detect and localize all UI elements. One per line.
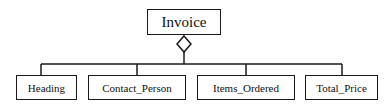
- class-box-invoice: Invoice: [147, 9, 221, 35]
- class-label: Invoice: [162, 14, 207, 31]
- class-box-heading: Heading: [16, 75, 77, 100]
- class-box-contact-person: Contact_Person: [88, 75, 186, 100]
- class-label: Contact_Person: [102, 82, 172, 94]
- class-label: Total_Price: [316, 82, 367, 94]
- class-label: Items_Ordered: [213, 82, 279, 94]
- class-box-items-ordered: Items_Ordered: [197, 75, 295, 100]
- aggregation-diamond-icon: [177, 36, 191, 52]
- class-box-total-price: Total_Price: [305, 75, 378, 100]
- class-label: Heading: [28, 82, 65, 94]
